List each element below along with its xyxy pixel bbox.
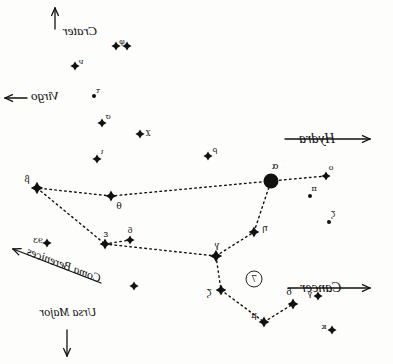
arrow-ursa-major: [64, 330, 71, 356]
star-marker: [325, 218, 333, 226]
star-label-sigma: σ: [105, 113, 110, 121]
star-label-nu: ν: [79, 58, 84, 66]
star-label-iota: ι: [100, 148, 103, 156]
star-label-phi: φ: [119, 38, 125, 46]
constellation-line: [37, 188, 111, 196]
arrow-crater: [52, 8, 59, 29]
star-marker: [98, 237, 113, 252]
star-marker: [127, 279, 141, 293]
constellation-label-hydra: Hydra: [299, 132, 335, 147]
star-label-chi: χ: [146, 128, 151, 136]
constellation-label-cancer: Cancer: [300, 281, 341, 296]
star-label-delta-prime: δ: [128, 227, 133, 235]
star-label-zeta-prime: ζ: [331, 211, 335, 219]
star-chart: αηγζμδθβεδοπζρχσιτνφ93γκ7 HydraCancerCra…: [0, 0, 393, 364]
constellation-line: [105, 244, 216, 256]
star-marker: [325, 323, 339, 337]
star-label-star-93: 93: [33, 237, 43, 245]
star-marker: [247, 225, 262, 240]
star-marker: [214, 283, 229, 298]
star-label-delta: δ: [286, 288, 291, 297]
star-label-beta: β: [24, 175, 29, 184]
constellation-line: [111, 181, 271, 196]
constellation-label-virgo: Virgo: [31, 89, 59, 103]
constellation-label-crater: Crater: [63, 24, 98, 38]
star-label-rho: ρ: [213, 146, 218, 154]
star-label-zeta: ζ: [207, 289, 212, 298]
star-marker: [262, 172, 281, 191]
star-label-eta: η: [262, 224, 267, 233]
star-marker: [257, 315, 272, 330]
star-label-omicron: ο: [329, 164, 334, 172]
star-label-theta: θ: [116, 202, 121, 211]
star-marker: [208, 248, 225, 265]
star-label-pi: π: [311, 185, 316, 193]
star-label-epsilon: ε: [104, 230, 109, 239]
star-label-alpha: α: [272, 161, 279, 171]
star-label-kappa: κ: [322, 323, 327, 331]
star-label-gamma: γ: [214, 241, 219, 250]
star-marker: [123, 233, 137, 247]
star-marker: [306, 192, 314, 200]
star-marker: [286, 297, 301, 312]
arrow-virgo: [5, 95, 27, 102]
circled-marker: 7: [246, 271, 263, 288]
star-label-mu: μ: [251, 311, 257, 320]
mirrored-drawing-layer: αηγζμδθβεδοπζρχσιτνφ93γκ7 HydraCancerCra…: [0, 0, 393, 364]
constellation-label-coma-berenices: Coma Berenices: [25, 245, 103, 285]
star-label-tau: τ: [96, 87, 100, 95]
star-marker: [29, 180, 46, 197]
constellation-label-ursa-major: Ursa Major: [39, 306, 97, 319]
